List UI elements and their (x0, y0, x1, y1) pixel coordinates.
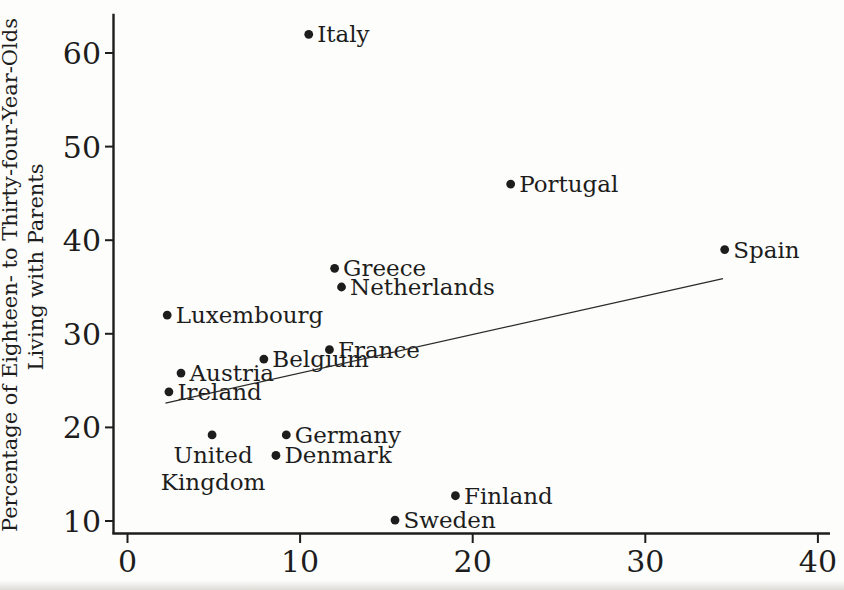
data-point-luxembourg: Luxembourg (163, 302, 324, 328)
x-tick-label: 10 (281, 544, 319, 579)
united-kingdom-marker-dot (208, 430, 217, 439)
x-tick-label: 40 (799, 544, 837, 579)
y-tick-label: 30 (63, 317, 101, 352)
netherlands-label: Netherlands (350, 274, 495, 300)
italy-label: Italy (317, 21, 369, 47)
sweden-marker-dot (391, 516, 400, 525)
netherlands-marker-dot (337, 283, 346, 292)
spain-label: Spain (733, 237, 800, 263)
greece-marker-dot (330, 264, 339, 273)
luxembourg-label: Luxembourg (176, 302, 324, 328)
italy-marker-dot (304, 30, 313, 39)
data-point-italy: Italy (304, 21, 369, 47)
ireland-label: Ireland (177, 379, 262, 405)
spain-marker-dot (720, 245, 729, 254)
data-point-finland: Finland (451, 483, 553, 509)
x-tick-label: 20 (454, 544, 492, 579)
scatter-plot-figure: 102030405060 010203040 Percentage of Eig… (0, 0, 844, 590)
data-point-netherlands: Netherlands (337, 274, 495, 300)
y-axis-title-line2: Living with Parents (24, 163, 48, 370)
y-tick-label: 60 (63, 36, 101, 71)
luxembourg-marker-dot (163, 311, 172, 320)
x-tick-label: 0 (118, 544, 137, 579)
y-tick-label: 20 (63, 410, 101, 445)
data-point-denmark: Denmark (272, 442, 393, 468)
sweden-label: Sweden (404, 507, 496, 533)
portugal-marker-dot (506, 180, 515, 189)
denmark-marker-dot (272, 451, 281, 460)
y-tick-label: 40 (63, 223, 101, 258)
portugal-label: Portugal (519, 171, 618, 197)
scatter-chart: 102030405060 010203040 Percentage of Eig… (0, 0, 844, 590)
y-tick-label: 50 (63, 130, 101, 165)
germany-marker-dot (282, 430, 291, 439)
y-axis-ticks: 102030405060 (63, 36, 114, 539)
finland-marker-dot (451, 491, 460, 500)
data-point-portugal: Portugal (506, 171, 618, 197)
united-kingdom-label: UnitedKingdom (161, 442, 266, 495)
ireland-marker-dot (165, 387, 174, 396)
data-point-spain: Spain (720, 237, 799, 263)
x-axis-ticks: 010203040 (118, 534, 837, 580)
data-point-sweden: Sweden (391, 507, 496, 533)
finland-label: Finland (464, 483, 553, 509)
denmark-label: Denmark (284, 442, 392, 468)
y-axis-title-line1: Percentage of Eighteen- to Thirty-four-Y… (0, 18, 22, 532)
y-tick-label: 10 (63, 504, 101, 539)
data-point-united-kingdom: UnitedKingdom (161, 430, 266, 494)
data-point-belgium: Belgium (259, 346, 369, 372)
x-tick-label: 30 (626, 544, 664, 579)
y-axis-title: Percentage of Eighteen- to Thirty-four-Y… (0, 18, 48, 532)
austria-marker-dot (177, 369, 186, 378)
data-points: ItalyPortugalSpainGreeceNetherlandsLuxem… (161, 21, 800, 533)
